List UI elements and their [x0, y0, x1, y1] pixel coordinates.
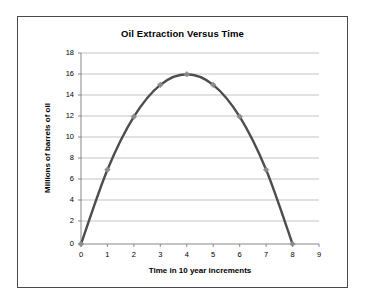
y-tick-label: 4: [70, 195, 74, 204]
x-tick-label: 2: [132, 250, 136, 259]
data-series: [78, 71, 295, 246]
y-tick-label: 18: [66, 48, 74, 57]
gridlines: [81, 53, 319, 221]
y-tick-label: 2: [70, 216, 74, 225]
y-tick-label: 10: [66, 132, 74, 141]
chart-plot-area: 18 16 14 12 10 8 6 4 2 0 0 1 2 3 4 5 6 7…: [18, 17, 349, 289]
x-tick-label: 3: [158, 250, 162, 259]
y-tick-label: 8: [70, 153, 74, 162]
x-tick-label: 0: [79, 250, 83, 259]
x-tick-labels: 0 1 2 3 4 5 6 7 8 9: [79, 250, 321, 259]
x-tick-label: 6: [238, 250, 242, 259]
data-point: [184, 71, 190, 77]
y-axis-title: Millions of barrels of oil: [43, 103, 52, 193]
data-point: [78, 241, 84, 247]
y-tick-label: 16: [66, 69, 74, 78]
series-line: [81, 74, 293, 244]
x-tick-label: 4: [185, 250, 189, 259]
x-tick-label: 1: [105, 250, 109, 259]
x-tick-label: 9: [317, 250, 321, 259]
data-point: [290, 241, 296, 247]
x-tick-label: 7: [264, 250, 268, 259]
y-tick-label: 6: [70, 174, 74, 183]
y-tick-labels: 18 16 14 12 10 8 6 4 2 0: [66, 48, 74, 248]
y-tick-label: 14: [66, 90, 74, 99]
x-axis-title: Time in 10 year increments: [149, 266, 252, 275]
x-tick-label: 5: [211, 250, 215, 259]
x-tick-label: 8: [291, 250, 295, 259]
y-tick-label: 12: [66, 111, 74, 120]
y-tick-label: 0: [70, 239, 74, 248]
chart-frame: Oil Extraction Versus Time: [17, 16, 348, 288]
